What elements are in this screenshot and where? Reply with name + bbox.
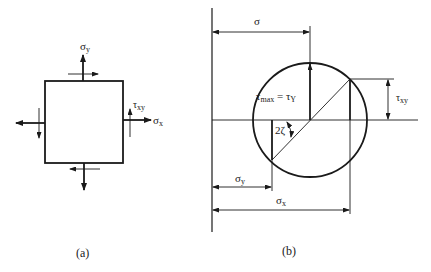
label-sigma-x-b: σx bbox=[276, 194, 286, 208]
caption-a: (a) bbox=[76, 246, 89, 260]
stress-element-square bbox=[45, 81, 123, 163]
label-tau-xy-b: τxy bbox=[396, 92, 408, 105]
mohr-circle-figure: σy σx τxy (a) σ τmax = τY τxy 2ζ bbox=[0, 0, 431, 272]
two-zeta-arc bbox=[287, 122, 291, 137]
label-two-zeta: 2ζ bbox=[275, 124, 286, 137]
label-tau-xy: τxy bbox=[133, 99, 145, 112]
label-tau-max-equals-tau-y: τmax = τY bbox=[256, 90, 296, 104]
label-sigma: σ bbox=[254, 15, 260, 27]
mohr-circle-panel: σ τmax = τY τxy 2ζ σy σx (b) bbox=[212, 8, 418, 258]
stress-element-panel: σy σx τxy (a) bbox=[16, 40, 163, 260]
caption-b: (b) bbox=[282, 244, 296, 258]
label-sigma-y: σy bbox=[80, 40, 90, 54]
label-sigma-y-b: σy bbox=[235, 172, 245, 186]
label-sigma-x: σx bbox=[153, 114, 163, 128]
